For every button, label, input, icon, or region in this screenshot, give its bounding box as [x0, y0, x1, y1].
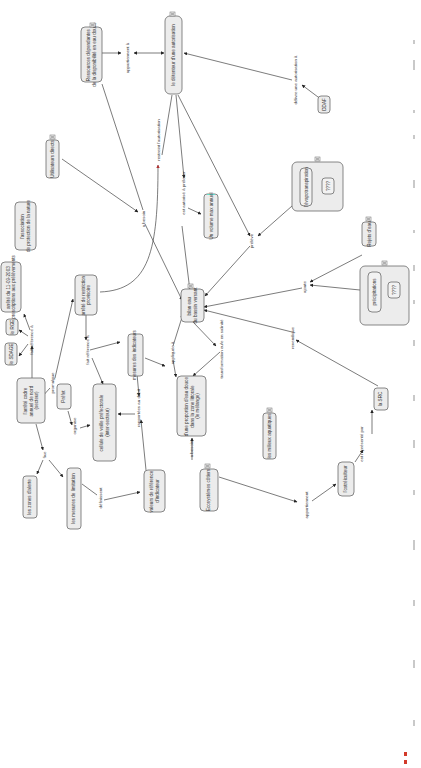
- node-src[interactable]: la SRC: [374, 388, 388, 410]
- node-proportion[interactable]: d'une proportion d'eau douce dans la zon…: [177, 376, 206, 437]
- node-label: l'évapotranspiration: [304, 167, 309, 207]
- node-label: les mesures de limitation: [71, 473, 76, 524]
- node-value: ????: [392, 284, 397, 295]
- node-association[interactable]: l'association de protection de la nature: [15, 200, 36, 253]
- link-label: délivre une autorisation à: [293, 55, 298, 105]
- link-label: appliquée à: [170, 341, 175, 364]
- node-arrete-2003[interactable]: arrêté du 11-09-2003 prescriptions aux p…: [1, 255, 21, 319]
- node-volume-max[interactable]: Un volume max annuel: [204, 193, 218, 240]
- node-ddaf[interactable]: DDAF: [318, 96, 330, 113]
- node-rejets[interactable]: Rejets d'eau: [362, 221, 376, 247]
- concept-map-canvas: Ressources dépendantes de la disponibili…: [0, 0, 421, 768]
- collapse-expand-icon[interactable]: [366, 217, 371, 221]
- link-label: est autorisé à prélever: [181, 171, 186, 215]
- node-sdage[interactable]: le SDAGE: [5, 343, 17, 365]
- link-label: prélève: [249, 233, 254, 248]
- edge: [92, 358, 103, 384]
- node-label: le SDAGE: [9, 344, 14, 365]
- caption-mark: [413, 40, 415, 44]
- edge: [90, 342, 120, 350]
- link-label: ajoute: [302, 280, 307, 293]
- collapse-expand-icon[interactable]: [90, 23, 95, 27]
- link-label: transformation eu/e en salinité: [219, 319, 224, 378]
- link-label: définissent: [98, 487, 103, 509]
- edge: [176, 95, 184, 178]
- caption-mark: [413, 230, 415, 233]
- caption-mark: [413, 660, 415, 668]
- node-zones-alerte[interactable]: les zones d'alerte: [23, 476, 37, 518]
- edge: [37, 460, 43, 474]
- edge: [145, 224, 182, 300]
- edge: [36, 424, 43, 450]
- edge: [204, 310, 292, 332]
- caption-mark: [413, 135, 415, 139]
- edge: [49, 460, 63, 477]
- link-label: promulgue: [50, 372, 55, 393]
- link-label: est représenté par: [359, 426, 364, 462]
- node-label: précipitations: [372, 278, 377, 306]
- node-label: Rejets d'eau: [367, 221, 372, 247]
- node-value: ????: [326, 180, 331, 191]
- caption-red-mark: [404, 752, 407, 756]
- node-arrete-cadre[interactable]: l'arrêté cadre annuel de nord (secteur): [17, 378, 45, 423]
- node-ostreiculteur[interactable]: l'ostréiculteur: [338, 462, 354, 496]
- caption-mark: [413, 265, 415, 271]
- edge: [204, 288, 302, 307]
- edge: [205, 246, 250, 296]
- node-detenteur[interactable]: le détenteur d'une autorisation: [165, 16, 182, 94]
- edge: [19, 344, 28, 356]
- collapse-expand-icon[interactable]: [267, 408, 272, 412]
- collapse-expand-icon[interactable]: [205, 464, 210, 468]
- node-label: Ressources dépendantes de la disponibili…: [86, 22, 97, 87]
- node-evapotranspiration-group[interactable]: l'évapotranspiration ????: [292, 162, 343, 211]
- node-prefet[interactable]: Préfet: [57, 384, 71, 409]
- link-label: restreint l'autorisation: [156, 119, 161, 161]
- edge: [162, 95, 172, 155]
- node-ressources[interactable]: Ressources dépendantes de la disponibili…: [81, 22, 102, 87]
- node-arrete-restriction[interactable]: arrêté de restriction provisoire: [75, 275, 97, 316]
- node-label: le RGE: [10, 320, 15, 335]
- node-label: le détenteur d'une autorisation: [171, 24, 176, 86]
- node-ecosystemes[interactable]: Ecosystèmes côtiers: [200, 468, 218, 511]
- caption-mark: [413, 110, 415, 113]
- node-label: Préfet: [61, 390, 66, 403]
- caption-mark: [413, 720, 415, 726]
- node-label: Un volume max annuel: [209, 193, 214, 240]
- edge: [100, 165, 158, 292]
- edge: [310, 285, 360, 290]
- link-label: rapportées au débit: [136, 388, 141, 427]
- collapse-expand-icon[interactable]: [50, 135, 55, 139]
- collapse-expand-icon[interactable]: [170, 12, 175, 16]
- node-utilisateurs[interactable]: Utilisateurs directs: [46, 140, 59, 178]
- node-rge[interactable]: le RGE: [6, 319, 18, 335]
- node-label: la SRC: [378, 391, 383, 406]
- node-label: les milieux aquatiques: [267, 413, 272, 459]
- node-mesures[interactable]: mesures des indicateurs: [128, 329, 143, 379]
- caption-strip: [399, 0, 421, 768]
- edge: [104, 492, 140, 500]
- node-bilan[interactable]: bilan eau du bassin versant: [181, 287, 204, 324]
- caption-red-mark: [404, 760, 407, 764]
- link-label: appartiennent à: [125, 42, 130, 73]
- collapse-expand-icon[interactable]: [382, 261, 387, 265]
- node-mesures-limitation[interactable]: les mesures de limitation: [67, 468, 81, 529]
- node-valeurs-reference[interactable]: valeurs de référence d'indicateur: [144, 469, 165, 512]
- edge: [182, 226, 190, 291]
- edge: [219, 477, 297, 502]
- caption-mark: [413, 300, 415, 304]
- link-label: a besoin: [141, 210, 146, 227]
- link-label: organise: [72, 417, 77, 434]
- edge: [188, 208, 201, 214]
- node-label: Utilisateurs directs: [50, 140, 55, 178]
- edge: [312, 484, 336, 501]
- caption-mark: [413, 440, 415, 448]
- node-label: DDAF: [322, 98, 327, 111]
- node-milieux[interactable]: les milieux aquatiques: [263, 413, 276, 459]
- node-cellule[interactable]: cellule de veille préfectorale (inter-se…: [93, 384, 116, 461]
- collapse-expand-icon[interactable]: [315, 157, 320, 161]
- edge: [80, 425, 90, 428]
- collapse-expand-icon[interactable]: [188, 284, 193, 288]
- edge: [193, 352, 220, 376]
- edge: [310, 255, 362, 282]
- link-label: fixe: [42, 451, 47, 458]
